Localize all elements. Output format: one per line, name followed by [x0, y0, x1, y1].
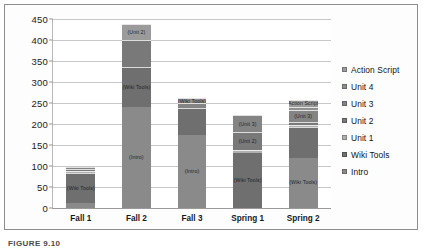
x-axis-tick-label: Fall 1 [70, 214, 91, 223]
legend-item-label: Unit 1 [351, 133, 373, 143]
bar-segment-intro[interactable] [66, 203, 95, 208]
y-axis-tick-mark [49, 61, 53, 62]
y-axis-tick-label: 0 [43, 203, 48, 214]
bar-fall-2[interactable]: (Intro)(Wiki Tools)(Unit 2) [122, 24, 151, 208]
y-axis-tick-label: 350 [32, 56, 48, 67]
bar-segment-label: (Wiki Tools) [122, 85, 150, 90]
bar-segment-wiki-tools[interactable]: (Wiki Tools) [66, 173, 95, 203]
legend-item-label: Unit 2 [351, 116, 373, 126]
y-axis-tick-label: 450 [32, 14, 48, 25]
y-axis-tick-label: 50 [37, 182, 48, 193]
legend-item-unit-1[interactable]: Unit 1 [342, 129, 414, 146]
bar-segment-label: (Wiki Tools) [289, 180, 317, 185]
legend-item-label: Unit 4 [351, 82, 373, 92]
gridline [53, 19, 331, 20]
x-axis-tick-label: Fall 3 [182, 214, 203, 223]
bar-segment-label: (Unit 2) [239, 139, 257, 144]
legend-swatch-icon [342, 101, 347, 106]
legend-item-label: Intro [351, 167, 368, 177]
y-axis-tick-mark [49, 145, 53, 146]
bar-segment-unit-2[interactable] [122, 40, 151, 67]
bar-segment-label: (Unit 3) [239, 122, 257, 127]
figure-caption: FIGURE 9.10 [8, 239, 60, 249]
bar-segment-intro[interactable]: (Intro) [122, 107, 151, 208]
chart-legend: Action ScriptUnit 4Unit 3Unit 2Unit 1Wik… [342, 61, 414, 180]
legend-swatch-icon [342, 84, 347, 89]
legend-item-intro[interactable]: Intro [342, 163, 414, 180]
y-axis-tick-mark [49, 187, 53, 188]
bar-segment-label: (Action Script) [289, 101, 318, 106]
y-axis-tick-mark [49, 40, 53, 41]
legend-item-label: Unit 3 [351, 99, 373, 109]
y-axis-tick-mark [49, 82, 53, 83]
bar-spring-2[interactable]: (Wiki Tools)(Unit 3)(Action Script) [289, 100, 318, 208]
legend-item-wiki-tools[interactable]: Wiki Tools [342, 146, 414, 163]
bar-segment-intro[interactable]: (Wiki Tools) [289, 158, 318, 208]
y-axis-tick-mark [49, 208, 53, 209]
bar-segment-unit-3[interactable]: (Unit 3) [233, 115, 262, 133]
y-axis-tick-label: 250 [32, 98, 48, 109]
gridline [53, 82, 331, 83]
gridline [53, 61, 331, 62]
gridline [53, 40, 331, 41]
bar-segment-label: (Unit 2) [127, 30, 145, 35]
bar-segment-wiki-tools[interactable]: (Wiki Tools) [122, 67, 151, 107]
chart-plot-area: 050100150200250300350400450(Wiki Tools)F… [52, 19, 331, 209]
y-axis-tick-label: 300 [32, 77, 48, 88]
bar-segment-label: (Intro) [185, 169, 200, 174]
legend-swatch-icon [342, 118, 347, 123]
bar-segment-label: (Wiki Tools) [67, 186, 95, 191]
bar-segment-unit-3[interactable]: (Unit 3) [289, 110, 318, 122]
bar-segment-unit-2[interactable]: (Unit 2) [233, 132, 262, 150]
y-axis-tick-mark [49, 19, 53, 20]
bar-segment-label: (Unit 3) [294, 114, 312, 119]
legend-swatch-icon [342, 67, 347, 72]
figure-panel: 050100150200250300350400450(Wiki Tools)F… [4, 4, 418, 230]
bar-segment-label: (Intro) [129, 155, 144, 160]
bar-segment-intro[interactable]: (Intro) [178, 135, 207, 209]
legend-swatch-icon [342, 135, 347, 140]
bar-spring-1[interactable]: (Wiki Tools)(Unit 2)(Unit 3) [233, 115, 262, 208]
legend-item-label: Action Script [351, 65, 399, 75]
legend-item-unit-3[interactable]: Unit 3 [342, 95, 414, 112]
y-axis-tick-label: 200 [32, 119, 48, 130]
bar-segment-wiki-tools[interactable] [289, 127, 318, 157]
y-axis-tick-label: 400 [32, 35, 48, 46]
x-axis-tick-label: Spring 1 [231, 214, 264, 223]
bar-fall-1[interactable]: (Wiki Tools) [66, 167, 95, 208]
bar-segment-action-script[interactable]: (Unit 2) [122, 24, 151, 40]
bar-segment-label: (Wiki Tools) [234, 178, 262, 183]
legend-item-unit-4[interactable]: Unit 4 [342, 78, 414, 95]
y-axis-tick-label: 100 [32, 161, 48, 172]
y-axis-tick-mark [49, 103, 53, 104]
bar-segment-action-script[interactable]: (Action Script) [289, 100, 318, 108]
bar-segment-wiki-tools[interactable] [178, 108, 207, 134]
y-axis-tick-label: 150 [32, 140, 48, 151]
legend-swatch-icon [342, 169, 347, 174]
legend-item-unit-2[interactable]: Unit 2 [342, 112, 414, 129]
y-axis-tick-mark [49, 124, 53, 125]
y-axis-tick-mark [49, 166, 53, 167]
legend-item-action-script[interactable]: Action Script [342, 61, 414, 78]
bar-fall-3[interactable]: (Intro)(Wiki Tools) [178, 98, 207, 208]
legend-item-label: Wiki Tools [351, 150, 390, 160]
x-axis-tick-label: Spring 2 [287, 214, 320, 223]
bar-segment-wiki-tools[interactable]: (Wiki Tools) [233, 153, 262, 208]
legend-swatch-icon [342, 152, 347, 157]
x-axis-tick-label: Fall 2 [126, 214, 147, 223]
